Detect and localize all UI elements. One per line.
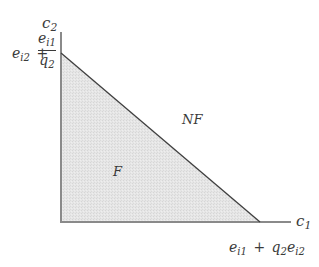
- y-intercept-fraction: ei1 q2: [38, 31, 56, 69]
- x-intercept-label: ei1 + q2ei2: [229, 240, 305, 257]
- feasible-region-label: F: [113, 165, 122, 178]
- not-feasible-region-label: NF: [182, 113, 202, 126]
- x-axis-label: c1: [296, 214, 311, 231]
